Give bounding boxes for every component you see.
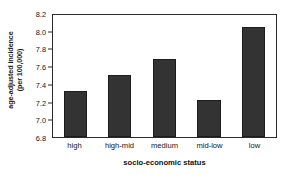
y-axis-tick-label: 7.0 [36,116,46,125]
bar-medium [153,59,176,137]
y-axis-tick-labels: 6.87.07.27.47.67.88.08.2 [26,10,48,140]
bars-layer [53,15,276,137]
bar-high-mid [108,75,131,137]
y-axis-tick-label: 7.2 [36,98,46,107]
y-axis-tick-label: 8.0 [36,27,46,36]
y-axis-tick-label: 7.4 [36,80,46,89]
bar-mid-low [197,100,220,137]
y-axis-tick-label: 6.8 [36,134,46,143]
x-axis-tick-label: high [52,141,97,150]
x-axis-tick-label: medium [142,141,187,150]
y-axis-tick-label: 7.6 [36,63,46,72]
plot-area [52,14,277,138]
bar-high [64,91,87,137]
y-axis-title-line-2: (per 100,000) [15,31,24,108]
bar-chart-figure: age-adjusted incidence (per 100,000) 6.8… [0,0,290,184]
x-axis-tick-labels: highhigh-midmediummid-lowlow [52,141,277,150]
bar-slot [142,15,187,137]
bar-slot [53,15,98,137]
x-axis-title: socio-economic status [52,158,277,167]
y-axis-title: age-adjusted incidence (per 100,000) [2,0,28,140]
x-axis-tick-label: high-mid [97,141,142,150]
bar-slot [187,15,232,137]
x-axis-tick-label: mid-low [187,141,232,150]
x-axis-tick-label: low [232,141,277,150]
y-axis-tick-label: 8.2 [36,10,46,19]
bar-slot [231,15,276,137]
bar-slot [98,15,143,137]
bar-low [242,27,265,137]
y-axis-tick-label: 7.8 [36,45,46,54]
